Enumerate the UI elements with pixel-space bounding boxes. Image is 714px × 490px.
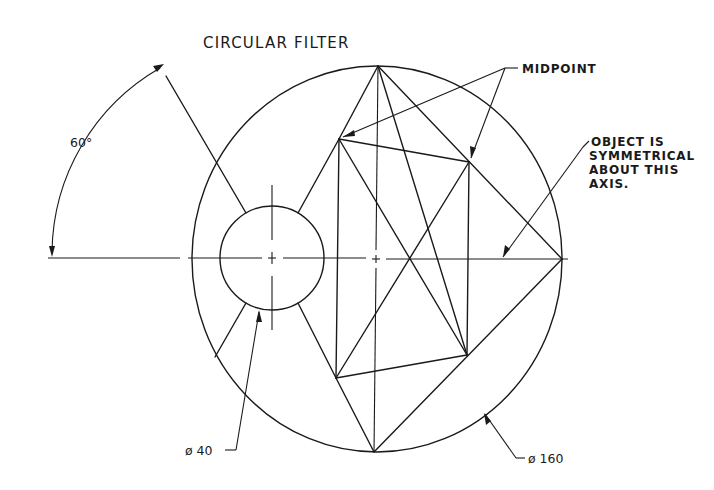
svg-text:AXIS.: AXIS. xyxy=(589,177,629,191)
arrowhead-icon xyxy=(343,130,355,137)
angle-dimension: 60° xyxy=(49,64,164,257)
midpoint-label: MIDPOINT xyxy=(522,62,596,76)
arrowhead-icon xyxy=(256,310,262,322)
arrowhead-icon xyxy=(503,245,510,257)
arrowhead-icon xyxy=(470,146,476,158)
svg-text:SYMMETRICAL: SYMMETRICAL xyxy=(589,149,695,163)
arrowhead-icon xyxy=(484,413,491,425)
small-diameter-leader: ø 40 xyxy=(185,310,262,458)
svg-text:OBJECT IS: OBJECT IS xyxy=(591,135,665,149)
large-diameter-label: ø 160 xyxy=(528,451,564,466)
circular-filter-drawing: CIRCULAR FILTER xyxy=(0,0,714,490)
large-diameter-leader: ø 160 xyxy=(484,413,564,466)
symmetry-note: OBJECT IS SYMMETRICAL ABOUT THIS AXIS. xyxy=(589,135,695,191)
horizontal-center-line xyxy=(48,258,568,259)
small-diameter-label: ø 40 xyxy=(185,443,213,458)
angle-label: 60° xyxy=(70,135,92,150)
svg-text:ABOUT THIS: ABOUT THIS xyxy=(589,163,679,177)
drawing-title: CIRCULAR FILTER xyxy=(203,34,350,52)
arrowhead-icon xyxy=(49,246,55,257)
